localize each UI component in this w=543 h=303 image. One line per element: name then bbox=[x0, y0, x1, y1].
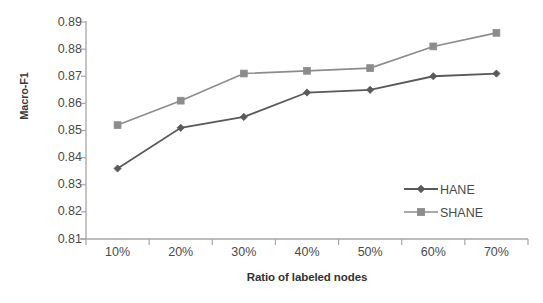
x-axis-tick-label: 40% bbox=[277, 246, 337, 259]
data-point-marker-diamond bbox=[367, 86, 374, 93]
legend-glyph-shane bbox=[404, 208, 438, 215]
data-point-marker-square bbox=[367, 65, 374, 72]
data-point-marker-square bbox=[304, 67, 311, 74]
x-axis-title: Ratio of labeled nodes bbox=[86, 271, 528, 283]
series-shane bbox=[114, 29, 500, 128]
data-point-marker-diamond bbox=[303, 89, 310, 96]
data-point-marker-square bbox=[493, 29, 500, 36]
series-line-hane bbox=[118, 74, 497, 169]
legend-marker-diamond bbox=[417, 185, 425, 193]
data-point-marker-diamond bbox=[240, 113, 247, 120]
legend-label-hane: HANE bbox=[440, 184, 475, 197]
x-axis-tick-label: 50% bbox=[340, 246, 400, 259]
data-point-marker-square bbox=[114, 122, 121, 129]
data-point-marker-square bbox=[240, 70, 247, 77]
series-hane bbox=[114, 70, 500, 172]
legend-label-shane: SHANE bbox=[440, 207, 483, 220]
legend-glyph-hane bbox=[404, 185, 438, 193]
data-point-marker-diamond bbox=[430, 73, 437, 80]
x-axis-tick-label: 20% bbox=[151, 246, 211, 259]
legend-marker-square bbox=[417, 208, 424, 215]
macro-f1-line-chart: Macro-F1 0.890.880.870.860.850.840.830.8… bbox=[0, 0, 543, 303]
data-point-marker-square bbox=[177, 97, 184, 104]
data-point-marker-square bbox=[430, 43, 437, 50]
x-axis-tick-label: 30% bbox=[214, 246, 274, 259]
x-axis-tick-label: 10% bbox=[88, 246, 148, 259]
series-line-shane bbox=[118, 33, 497, 125]
x-axis-tick-label: 60% bbox=[403, 246, 463, 259]
x-axis-tick-label: 70% bbox=[466, 246, 526, 259]
data-point-marker-diamond bbox=[493, 70, 500, 77]
